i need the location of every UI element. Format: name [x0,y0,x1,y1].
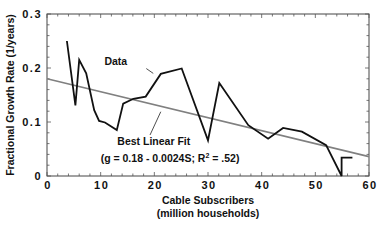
x-tick-label: 10 [94,179,109,191]
fit-leader-line [150,112,161,135]
y-tick-labels: 00.10.20.3 [22,8,42,182]
y-tick-label: 0.3 [22,8,42,20]
best-linear-fit-line [47,79,369,157]
x-tick-label: 20 [148,179,163,191]
x-tick-label: 40 [255,179,270,191]
chart: 0102030405060 00.10.20.3 Data Best Linea… [0,0,379,234]
x-tick-label: 0 [44,179,52,191]
y-tick-label: 0.1 [22,116,42,128]
y-axis-title: Fractional Growth Rate (1/years) [4,14,16,176]
x-tick-labels: 0102030405060 [44,179,377,191]
x-axis-subtitle: (million households) [157,207,260,219]
x-axis-title: Cable Subscribers [162,194,254,206]
y-tick-label: 0.2 [22,62,42,74]
x-tick-label: 50 [309,179,324,191]
x-tick-label: 30 [201,179,216,191]
data-annotation: Data [104,55,127,67]
fit-annotation: Best Linear Fit [117,135,190,147]
y-tick-label: 0 [34,170,42,182]
fit-equation: (g = 0.18 - 0.0024S; R2 = .52) [101,152,240,164]
data-leader-line [146,69,153,74]
x-tick-label: 60 [362,179,377,191]
equation-text-end: = .52) [209,152,239,164]
equation-text: (g = 0.18 - 0.0024S; R [101,152,206,164]
